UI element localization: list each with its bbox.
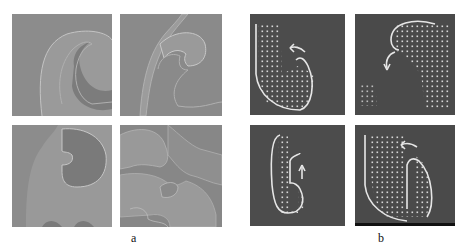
panel-b-bottom-right xyxy=(355,125,455,226)
spiral-wave-image xyxy=(12,125,112,227)
panel-b-top-left xyxy=(250,14,345,115)
panel-b-bottom-left xyxy=(250,125,345,226)
spiral-wave-image xyxy=(12,14,112,116)
panel-a-top-right xyxy=(120,14,222,116)
panel-a-bottom-left xyxy=(12,125,112,227)
spiral-wave-image xyxy=(120,14,222,116)
dot-grid-image xyxy=(355,125,455,226)
panel-b-label: b xyxy=(378,232,384,244)
panel-a-label: a xyxy=(131,232,136,244)
dot-grid-image xyxy=(355,14,455,115)
dot-grid-image xyxy=(250,125,345,226)
panel-a-top-left xyxy=(12,14,112,116)
dot-grid-image xyxy=(250,14,345,115)
spiral-wave-image xyxy=(120,125,222,227)
panel-a-bottom-right xyxy=(120,125,222,227)
panel-b-top-right xyxy=(355,14,455,115)
